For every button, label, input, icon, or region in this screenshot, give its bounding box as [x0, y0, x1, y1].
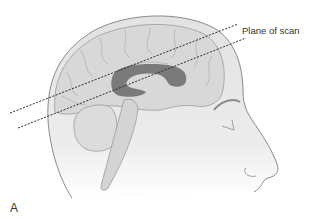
- panel-label: A: [10, 201, 18, 215]
- diagram-canvas: Plane of scan A: [0, 0, 316, 219]
- scan-plane-label: Plane of scan: [242, 25, 300, 36]
- cerebellum: [74, 105, 117, 151]
